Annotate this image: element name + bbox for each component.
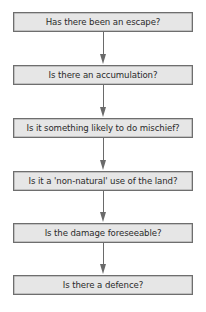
arrow-down-icon bbox=[103, 191, 105, 223]
step-label: Is it a 'non-natural' use of the land? bbox=[29, 176, 178, 186]
arrow-down-icon bbox=[103, 85, 105, 118]
step-label: Is the damage foreseeable? bbox=[45, 228, 162, 238]
step-label: Is it something likely to do mischief? bbox=[26, 123, 179, 133]
step-label: Is there a defence? bbox=[63, 280, 143, 290]
step-label: Is there an accumulation? bbox=[49, 70, 158, 80]
step-box-foreseeable: Is the damage foreseeable? bbox=[13, 223, 193, 243]
step-box-non-natural-use: Is it a 'non-natural' use of the land? bbox=[13, 171, 193, 191]
arrow-down-icon bbox=[103, 243, 105, 275]
step-box-mischief: Is it something likely to do mischief? bbox=[13, 118, 193, 138]
step-box-defence: Is there a defence? bbox=[13, 275, 193, 295]
flowchart: Has there been an escape? Is there an ac… bbox=[0, 0, 206, 312]
arrow-down-icon bbox=[103, 32, 105, 65]
step-label: Has there been an escape? bbox=[46, 17, 161, 27]
step-box-accumulation: Is there an accumulation? bbox=[13, 65, 193, 85]
step-box-escape: Has there been an escape? bbox=[13, 12, 193, 32]
arrow-down-icon bbox=[103, 138, 105, 171]
